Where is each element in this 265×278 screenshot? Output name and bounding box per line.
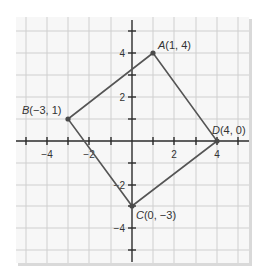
y-tick-label: −4 [114,223,126,234]
x-tick-label: 4 [214,149,220,160]
point-b-name: B [22,104,29,116]
y-tick-label: 4 [119,48,125,59]
x-tick-label: 2 [171,149,177,160]
point-b [65,116,70,121]
point-c [129,203,134,208]
point-a-name: A [157,39,165,51]
point-d [214,138,219,143]
point-c-coords: (0, −3) [144,209,176,221]
point-b-coords: (−3, 1) [29,104,61,116]
x-tick-label: −4 [41,149,53,160]
point-c-label: C(0, −3) [136,209,176,221]
coordinate-plane-figure: −4 −2 2 4 4 2 −2 −4 A(1, 4) B(−3, 1) C(0… [0,0,265,278]
point-a-coords: (1, 4) [165,39,191,51]
point-c-name: C [136,209,144,221]
point-b-label: B(−3, 1) [22,104,61,116]
point-a [150,50,155,55]
y-tick-label: 2 [119,92,125,103]
point-d-coords: (4, 0) [220,124,246,136]
point-a-label: A(1, 4) [157,39,191,51]
point-d-name: D [212,124,220,136]
point-d-label: D(4, 0) [212,124,246,136]
